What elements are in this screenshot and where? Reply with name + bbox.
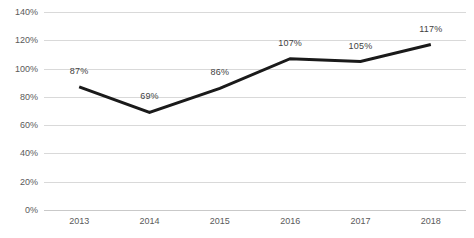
y-axis-tick-label: 80% — [0, 92, 38, 102]
x-axis-tick-label: 2015 — [210, 216, 230, 226]
x-axis-tick-label: 2017 — [350, 216, 370, 226]
data-point-label: 105% — [349, 41, 373, 51]
gridline — [44, 210, 466, 211]
y-axis-tick-label: 60% — [0, 120, 38, 130]
y-axis-tick-label: 120% — [0, 35, 38, 45]
data-point-label: 117% — [419, 24, 442, 34]
y-axis-tick-label: 0% — [0, 205, 38, 215]
y-axis-tick-label: 140% — [0, 7, 38, 17]
series-polyline — [79, 45, 431, 113]
data-point-label: 69% — [140, 91, 159, 101]
line-chart: 0%20%40%60%80%100%120%140% 2013201420152… — [0, 0, 474, 238]
x-axis-tick-label: 2016 — [280, 216, 300, 226]
x-axis-tick-label: 2014 — [139, 216, 159, 226]
plot-area: 0%20%40%60%80%100%120%140% 2013201420152… — [44, 12, 466, 210]
y-axis-tick-label: 20% — [0, 177, 38, 187]
x-axis-tick-label: 2018 — [421, 216, 441, 226]
data-point-label: 86% — [211, 67, 230, 77]
data-point-label: 107% — [278, 38, 302, 48]
y-axis-tick-label: 100% — [0, 64, 38, 74]
x-axis-tick-label: 2013 — [69, 216, 89, 226]
series-line — [44, 12, 466, 210]
data-point-label: 87% — [70, 66, 89, 76]
y-axis-tick-label: 40% — [0, 148, 38, 158]
